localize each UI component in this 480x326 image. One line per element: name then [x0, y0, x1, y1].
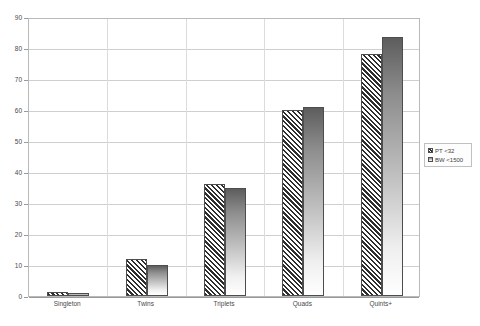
- legend-swatch-bw-icon: [428, 157, 433, 162]
- y-tick-label: 20: [15, 232, 22, 239]
- y-tick-label: 70: [15, 77, 22, 84]
- y-tick-label: 40: [15, 170, 22, 177]
- category-separator: [107, 19, 108, 296]
- y-tick-label: 50: [15, 139, 22, 146]
- legend-item-bw: BW <1500: [428, 155, 468, 164]
- bar-group-quints: [343, 37, 421, 296]
- bar-pt: [204, 184, 225, 296]
- x-tick-label: Triplets: [213, 300, 234, 308]
- bar-pt: [126, 259, 147, 296]
- legend-item-pt: PT <32: [428, 146, 468, 155]
- y-tick-label: 60: [15, 108, 22, 115]
- bar-bw: [225, 188, 246, 296]
- y-tick-label: 90: [15, 15, 22, 22]
- bar-group-quads: [264, 107, 342, 296]
- x-tick-label: Singleton: [54, 300, 81, 308]
- chart-legend: PT <32 BW <1500: [424, 143, 472, 167]
- plot-area: [28, 18, 420, 297]
- bar-bw: [303, 107, 324, 296]
- x-tick-label: Quints+: [370, 300, 393, 308]
- gridline-0: [29, 297, 419, 298]
- bar-bw: [382, 37, 403, 296]
- bar-pt: [47, 292, 68, 296]
- x-axis-labels: SingletonTwinsTripletsQuadsQuints+: [28, 300, 420, 320]
- bar-group-singleton: [29, 292, 107, 296]
- bar-pt: [361, 54, 382, 296]
- y-tick-mark: [24, 297, 28, 298]
- legend-label-pt: PT <32: [435, 148, 454, 154]
- y-tick-label: 30: [15, 201, 22, 208]
- y-tick-label: 10: [15, 263, 22, 270]
- bar-pt: [282, 110, 303, 296]
- x-tick-label: Twins: [137, 300, 154, 308]
- y-axis: 0102030405060708090: [0, 18, 26, 297]
- bar-bw: [147, 265, 168, 296]
- legend-label-bw: BW <1500: [435, 157, 463, 163]
- x-tick-label: Quads: [293, 300, 312, 308]
- y-tick-label: 0: [18, 294, 22, 301]
- legend-swatch-pt-icon: [428, 148, 433, 153]
- bar-group-triplets: [186, 184, 264, 296]
- y-tick-label: 80: [15, 46, 22, 53]
- bar-chart: 0102030405060708090 SingletonTwinsTriple…: [0, 0, 480, 326]
- bar-bw: [68, 293, 89, 296]
- bar-group-twins: [107, 259, 185, 296]
